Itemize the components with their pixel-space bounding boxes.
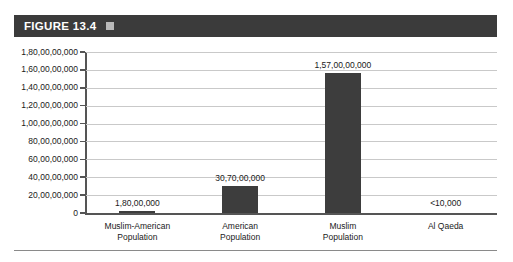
- bar-value-label: 1,57,00,00,000: [288, 61, 398, 70]
- y-axis-tick: [80, 194, 85, 196]
- gridline: [86, 195, 497, 196]
- x-axis-category-label: Muslim-AmericanPopulation: [82, 221, 192, 242]
- y-axis-tick-label: 40,00,00,000: [4, 173, 78, 182]
- figure-header-bar: FIGURE 13.4: [14, 15, 497, 37]
- plot-area: [86, 52, 497, 213]
- gridline: [86, 141, 497, 142]
- square-icon: [106, 22, 114, 30]
- y-axis-tick-label: 1,60,00,00,000: [4, 65, 78, 74]
- bar-value-label: <10,000: [391, 199, 501, 208]
- x-axis-category-line: Muslim-American: [82, 221, 192, 232]
- bar-value-label: 30,70,00,000: [185, 174, 295, 183]
- bottom-divider: [14, 250, 497, 251]
- y-axis-tick: [80, 123, 85, 125]
- y-axis-tick-label: 1,40,00,00,000: [4, 83, 78, 92]
- bar: [222, 186, 258, 213]
- gridline: [86, 124, 497, 125]
- x-axis-category-line: Muslim: [288, 221, 398, 232]
- bar-value-label: 1,80,00,000: [82, 199, 192, 208]
- bar-chart: 1,80,00,00,0001,60,00,00,0001,40,00,00,0…: [0, 40, 513, 220]
- x-axis-category-label: MuslimPopulation: [288, 221, 398, 242]
- y-axis-tick-label: 0: [4, 209, 78, 218]
- y-axis-tick: [80, 69, 85, 71]
- y-axis-tick: [80, 51, 85, 53]
- x-axis-line: [85, 213, 497, 215]
- y-axis-tick: [80, 176, 85, 178]
- gridline: [86, 52, 497, 53]
- y-axis-tick: [80, 159, 85, 161]
- y-axis-tick-label: 1,20,00,00,000: [4, 101, 78, 110]
- bar: [119, 211, 155, 213]
- x-axis-category-line: Population: [82, 232, 192, 243]
- x-axis-category-line: Population: [288, 232, 398, 243]
- y-axis-tick: [80, 141, 85, 143]
- bar: [325, 73, 361, 213]
- gridline: [86, 88, 497, 89]
- y-axis-tick: [80, 87, 85, 89]
- x-axis-category-line: Al Qaeda: [391, 221, 501, 232]
- y-axis-tick: [80, 212, 85, 214]
- y-axis-tick-label: 20,00,00,000: [4, 191, 78, 200]
- y-axis-tick: [80, 105, 85, 107]
- y-axis-tick-label: 60,00,00,000: [4, 155, 78, 164]
- x-axis-category-label: AmericanPopulation: [185, 221, 295, 242]
- gridline: [86, 70, 497, 71]
- x-axis-category-label: Al Qaeda: [391, 221, 501, 232]
- x-axis-category-line: Population: [185, 232, 295, 243]
- gridline: [86, 106, 497, 107]
- y-axis-tick-label: 1,80,00,00,000: [4, 48, 78, 57]
- y-axis-tick-label: 80,00,00,000: [4, 137, 78, 146]
- y-axis-tick-label: 1,00,00,00,000: [4, 119, 78, 128]
- gridline: [86, 159, 497, 160]
- figure-header-label: FIGURE 13.4: [24, 20, 96, 32]
- x-axis-category-line: American: [185, 221, 295, 232]
- figure-container: FIGURE 13.4 1,80,00,00,0001,60,00,00,000…: [0, 0, 513, 262]
